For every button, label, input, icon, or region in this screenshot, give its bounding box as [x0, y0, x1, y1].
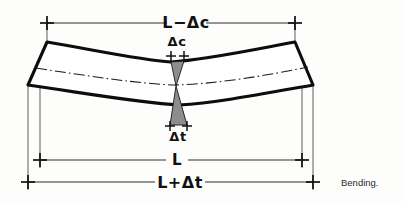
dimension-bottom: L+Δt [21, 173, 320, 192]
bending-diagram-svg: L−Δc Δc Δt L [0, 0, 403, 204]
figure-caption: Bending. [341, 177, 379, 188]
label-top-dimension: L−Δc [162, 13, 209, 32]
dimension-neutral: L [33, 151, 309, 169]
gap-compression: Δc [166, 34, 189, 61]
dimension-top: L−Δc [40, 13, 302, 32]
label-bottom-dimension: L+Δt [157, 173, 203, 192]
label-tension-gap: Δt [169, 129, 186, 144]
bending-figure: L−Δc Δc Δt L [0, 0, 403, 204]
label-neutral-length: L [172, 151, 182, 169]
label-compression-gap: Δc [168, 34, 187, 49]
